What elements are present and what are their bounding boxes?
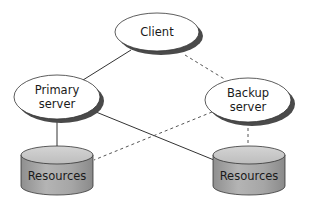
cylinder-right-top (213, 146, 285, 164)
node-backup-label-line2: server (230, 100, 267, 114)
node-primary-server: Primary server (14, 75, 104, 123)
node-primary-label-line2: server (39, 97, 76, 111)
node-backup-label-line1: Backup (227, 86, 269, 100)
node-primary-label-line1: Primary (35, 83, 80, 97)
edge-client-backup (185, 55, 226, 80)
node-resources-left: Resources (21, 146, 93, 195)
node-resources-left-label: Resources (28, 169, 87, 183)
edge-primary-resources-right (96, 112, 214, 160)
diagram-canvas: Client Primary server Backup server Reso… (0, 0, 310, 206)
cylinder-left-top (21, 146, 93, 164)
edge-client-primary (83, 50, 131, 80)
node-resources-right: Resources (213, 146, 285, 195)
node-resources-right-label: Resources (220, 169, 279, 183)
node-client-label: Client (140, 25, 174, 39)
node-backup-server: Backup server (205, 78, 295, 126)
edge-backup-resources-left (94, 112, 212, 160)
node-client: Client (115, 13, 203, 55)
